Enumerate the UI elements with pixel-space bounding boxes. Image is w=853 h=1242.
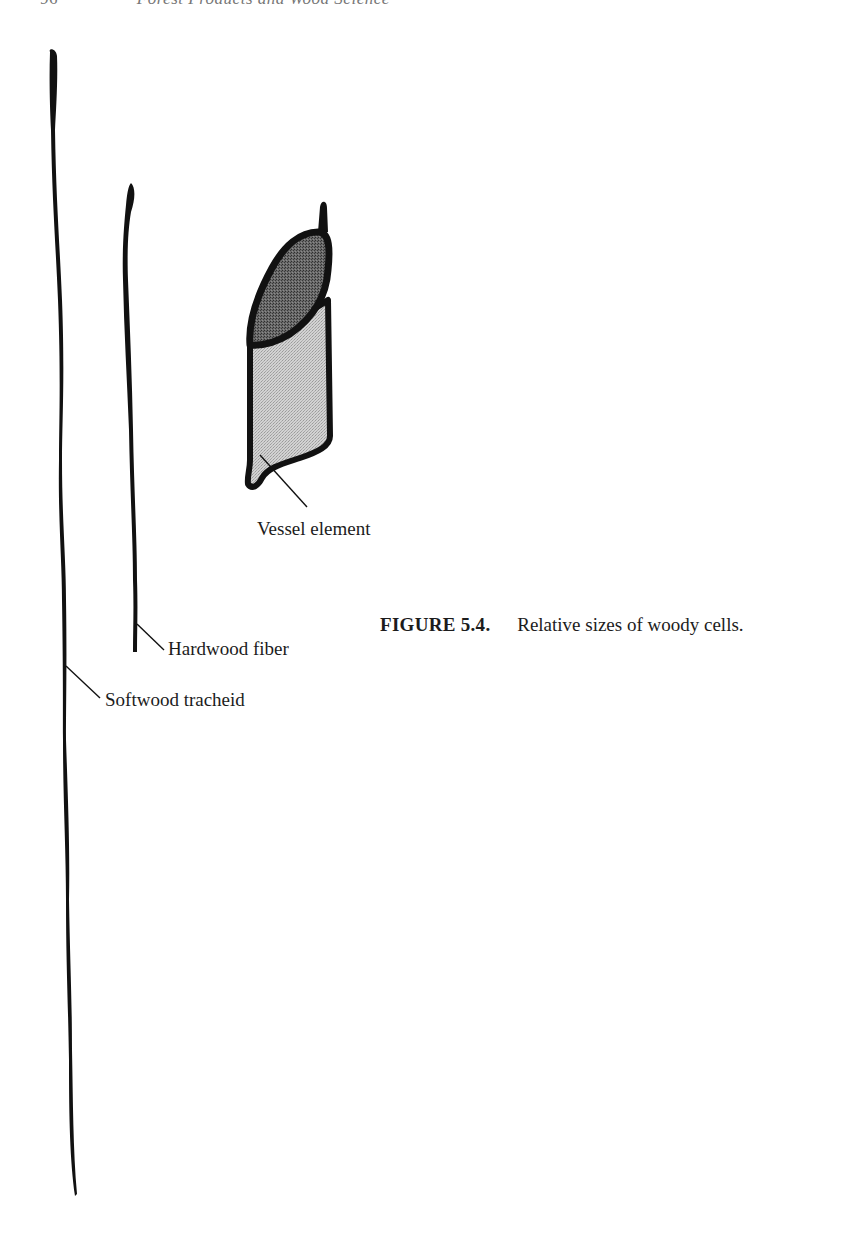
hardwood-fiber-shape [123,183,164,652]
softwood-tracheid-label: Softwood tracheid [105,689,245,711]
figure-caption: FIGURE 5.4. Relative sizes of woody cell… [380,614,744,636]
softwood-tracheid-shape [50,49,100,1196]
vessel-element-label: Vessel element [257,518,370,540]
hardwood-fiber-label: Hardwood fiber [168,638,289,660]
vessel-element-shape [248,202,330,507]
figure-number: FIGURE 5.4. [380,614,490,635]
figure-caption-text: Relative sizes of woody cells. [517,614,743,635]
